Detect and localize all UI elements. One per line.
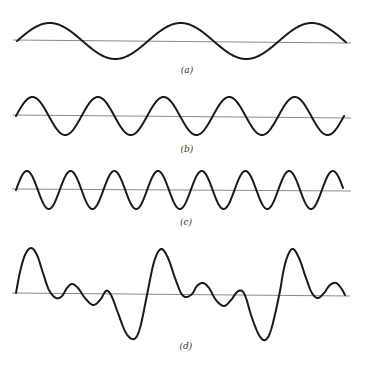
caption-c: (c) <box>180 217 192 227</box>
axis-line-b <box>13 115 351 118</box>
caption-b: (b) <box>181 144 194 154</box>
panel-b <box>13 97 351 135</box>
composite-wave-d <box>16 248 345 340</box>
sine-wave-b <box>16 97 344 135</box>
panel-c <box>12 171 351 209</box>
caption-a: (a) <box>181 65 193 75</box>
waveform-figure <box>0 0 369 373</box>
axis-line-a <box>13 40 351 43</box>
panel-d <box>12 248 350 340</box>
panel-a <box>13 23 351 59</box>
caption-d: (d) <box>180 341 193 351</box>
